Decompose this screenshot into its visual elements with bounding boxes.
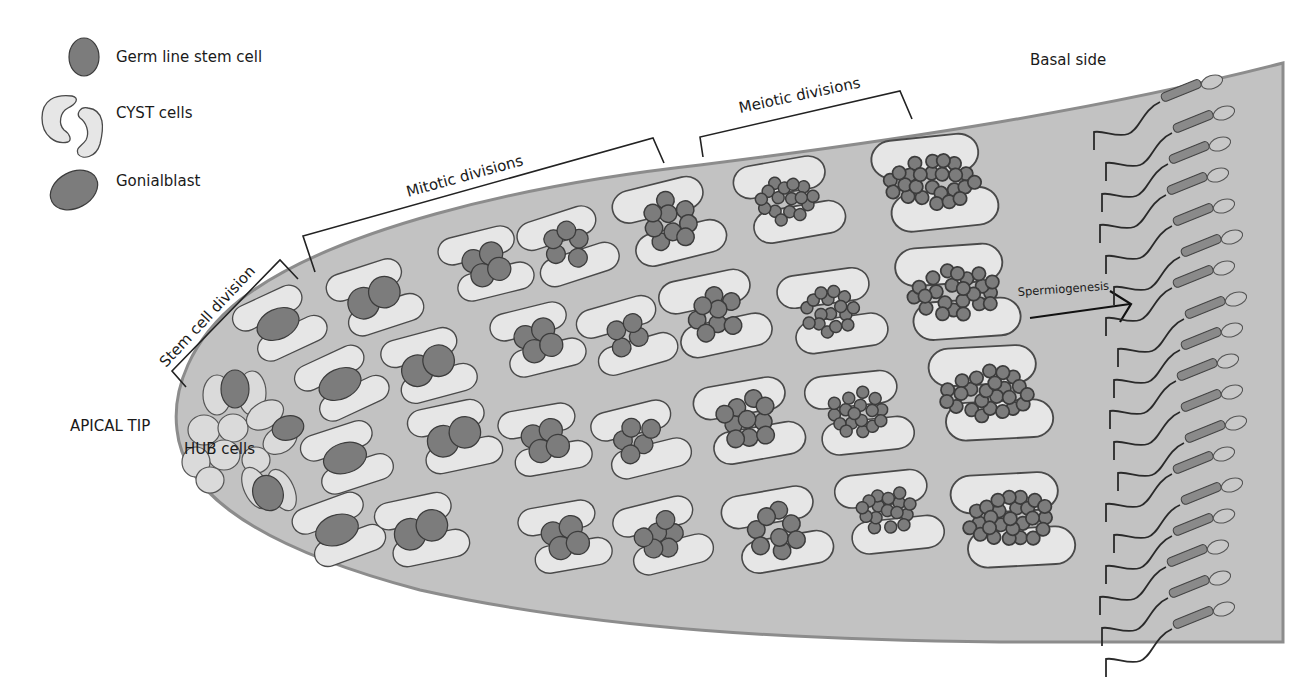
germ-cell [972,267,986,281]
legend-item-gonialblast: Gonialblast [43,162,200,217]
germ-cell [882,492,895,505]
germ-cell [886,185,901,200]
germ-line-stem-cell [221,370,249,408]
germ-cell [991,493,1005,507]
legend-item-germ-line-stem-cell: Germ line stem cell [69,38,262,76]
germ-cell [897,518,910,531]
hub-cells-label: HUB cells [184,440,255,458]
germ-cell [847,301,861,315]
germ-cell [913,167,928,182]
germ-cell [828,397,841,410]
germ-cell [869,392,882,405]
germ-cell [950,266,964,280]
germ-cell [842,392,855,405]
gonialblast-icon [43,162,104,217]
germ-cell [926,271,940,285]
germ-cell [956,281,970,295]
germ-cell [840,425,853,438]
germ-cell [953,191,968,206]
germ-cell [954,387,968,401]
germ-cell [1026,511,1040,525]
germ-cell [848,407,861,420]
germ-cell [1038,499,1052,513]
germ-cell [982,521,996,535]
germ-cell [827,285,841,299]
germ-cell [988,376,1002,390]
germ-cell [834,300,848,314]
stage-label-meiotic-divisions: Meiotic divisions [737,74,862,117]
legend-item-cyst-cells: CYST cells [42,96,193,158]
germ-cell [893,486,906,499]
germ-cell [890,506,903,519]
legend: Germ line stem cell CYST cells Gonialbla… [42,38,262,218]
germ-cell [856,501,869,514]
germ-cell [967,175,982,190]
germ-cell [1036,522,1050,536]
cyst-cells-icon [42,96,102,158]
stage-label-mitotic-divisions: Mitotic divisions [404,151,525,201]
germ-cell [866,404,879,417]
germ-cell [814,286,828,300]
germ-line-stem-cell-icon [69,38,99,76]
spermatogenesis-diagram: Germ line stem cell CYST cells Gonialbla… [0,0,1316,679]
germ-cell [802,316,816,330]
germ-cell [948,168,963,183]
germ-cell [929,196,944,211]
germ-cell [1003,512,1017,526]
germ-cell [1020,388,1034,402]
germ-cell [841,318,855,332]
germ-cell [935,167,950,182]
germ-cell [856,386,869,399]
germ-cell [956,307,970,321]
legend-label: Gonialblast [116,172,201,190]
germ-cell [918,289,932,303]
legend-label: Germ line stem cell [116,48,262,66]
germ-cell [829,320,843,334]
apical-tip-label: APICAL TIP [70,417,150,435]
germ-cell [884,520,897,533]
germ-cell [969,371,983,385]
germ-cell [985,275,999,289]
legend-label: CYST cells [116,104,193,122]
germ-cell [936,153,951,168]
germ-cell [874,414,887,427]
germ-cell [983,297,997,311]
germ-cell [996,405,1010,419]
germ-cell [935,307,949,321]
basal-side-label: Basal side [1030,51,1106,69]
germ-cell [892,166,907,181]
germ-cell [1002,390,1016,404]
germ-cell [940,395,954,409]
germ-cell [955,374,969,388]
germ-cell [903,497,916,510]
